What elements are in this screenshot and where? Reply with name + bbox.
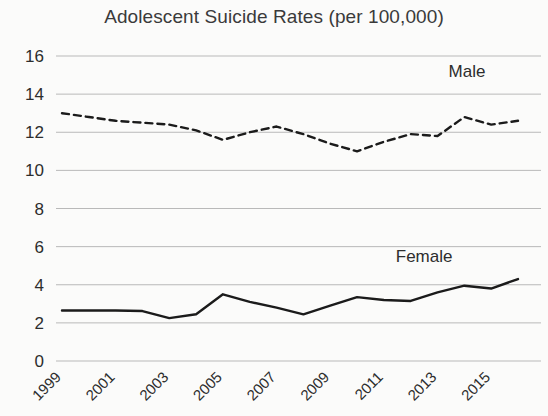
x-axis-tick-label: 2005 <box>189 368 225 404</box>
x-axis-tick-labels: 199920012003200520072009201120132015 <box>29 368 494 404</box>
y-axis-tick-label: 0 <box>35 352 44 371</box>
x-axis-tick-label: 1999 <box>29 368 65 404</box>
series-label-male: Male <box>449 62 486 81</box>
series-label-female: Female <box>396 247 453 266</box>
series-annotations: MaleFemale <box>396 62 486 266</box>
y-axis-tick-label: 16 <box>25 47 44 66</box>
chart-svg: 0246810121416 19992001200320052007200920… <box>0 0 548 416</box>
x-axis-tick-label: 2009 <box>297 368 333 404</box>
x-axis-tick-label: 2007 <box>243 368 279 404</box>
y-axis-tick-label: 4 <box>35 276 44 295</box>
chart-container: Adolescent Suicide Rates (per 100,000) 0… <box>0 0 548 416</box>
y-axis-tick-label: 14 <box>25 85 44 104</box>
y-axis-tick-labels: 0246810121416 <box>25 47 44 371</box>
x-axis-tick-label: 2011 <box>351 368 386 403</box>
gridlines <box>56 56 541 361</box>
x-axis-tick-label: 2003 <box>136 368 172 404</box>
x-axis-tick-label: 2015 <box>458 368 494 404</box>
y-axis-tick-label: 10 <box>25 161 44 180</box>
y-axis-tick-label: 2 <box>35 314 44 333</box>
y-axis-tick-label: 6 <box>35 238 44 257</box>
x-axis-tick-label: 2001 <box>82 368 118 404</box>
series-lines <box>62 113 518 318</box>
y-axis-tick-label: 8 <box>35 200 44 219</box>
x-axis-tick-label: 2013 <box>404 368 440 404</box>
y-axis-tick-label: 12 <box>25 123 44 142</box>
